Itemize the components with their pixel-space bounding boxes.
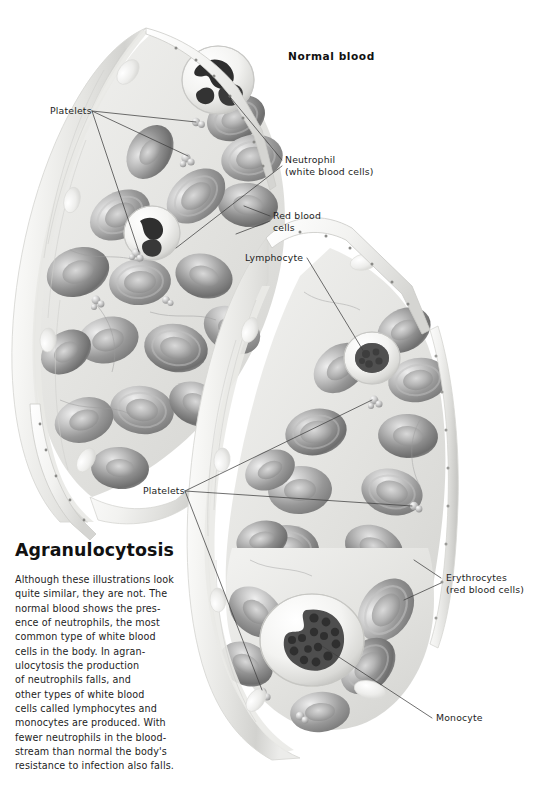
body-line-8: other types of white blood xyxy=(15,688,220,702)
label-neutrophil-line2: (white blood cells) xyxy=(285,166,374,178)
label-lymphocyte: Lymphocyte xyxy=(245,252,303,264)
label-lymphocyte-line1: Lymphocyte xyxy=(245,252,303,263)
body-line-1: quite similar, they are not. The xyxy=(15,587,220,601)
label-neutrophil: Neutrophil (white blood cells) xyxy=(285,154,374,178)
body-line-13: resistance to infection also falls. xyxy=(15,759,220,773)
heading-agranulocytosis: Agranulocytosis xyxy=(15,540,174,560)
monocyte-cell xyxy=(260,594,364,686)
label-red-blood-cells-line2: cells xyxy=(273,222,321,234)
agranulocytosis-description: Although these illustrations look quite … xyxy=(15,573,220,774)
label-platelets-bottom: Platelets xyxy=(143,485,185,497)
body-line-2: normal blood shows the pres- xyxy=(15,602,220,616)
body-line-6: ulocytosis the production xyxy=(15,659,220,673)
label-platelets-bottom-line1: Platelets xyxy=(143,485,185,496)
label-monocyte: Monocyte xyxy=(436,712,483,724)
body-line-4: common type of white blood xyxy=(15,630,220,644)
body-line-5: cells in the body. In agran- xyxy=(15,645,220,659)
label-red-blood-cells-line1: Red blood xyxy=(273,210,321,221)
label-platelets-top: Platelets xyxy=(50,105,92,117)
title-normal-blood: Normal blood xyxy=(288,50,375,62)
body-line-3: ence of neutrophils, the most xyxy=(15,616,220,630)
lymphocyte-cell xyxy=(344,332,400,384)
body-line-10: monocytes are produced. With xyxy=(15,716,220,730)
label-monocyte-line1: Monocyte xyxy=(436,712,483,723)
label-erythrocytes: Erythrocytes (red blood cells) xyxy=(446,572,524,596)
label-platelets-top-line1: Platelets xyxy=(50,105,92,116)
label-erythrocytes-line1: Erythrocytes xyxy=(446,572,507,583)
body-line-9: cells called lymphocytes and xyxy=(15,702,220,716)
label-neutrophil-line1: Neutrophil xyxy=(285,154,335,165)
body-line-0: Although these illustrations look xyxy=(15,573,220,587)
body-line-12: stream than normal the body's xyxy=(15,745,220,759)
label-erythrocytes-line2: (red blood cells) xyxy=(446,584,524,596)
label-red-blood-cells: Red blood cells xyxy=(273,210,321,234)
body-line-7: of neutrophils falls, and xyxy=(15,673,220,687)
illustration-canvas: Normal blood Platelets Neutrophil (white… xyxy=(0,0,535,788)
body-line-11: fewer neutrophils in the blood- xyxy=(15,731,220,745)
